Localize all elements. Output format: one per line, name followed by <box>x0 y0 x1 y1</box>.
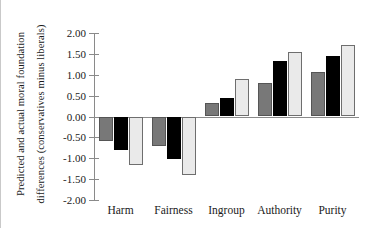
bar-group-authority <box>258 33 302 200</box>
y-tick-mark <box>89 158 99 159</box>
bar-group-purity <box>311 33 355 200</box>
bar-harm-series-3 <box>129 117 143 166</box>
chart-figure: Predicted and actual moral foundation di… <box>0 0 372 228</box>
bar-group-harm <box>99 33 143 200</box>
x-label-ingroup: Ingroup <box>208 205 244 217</box>
bar-fairness-series-1 <box>152 117 166 147</box>
y-tick-mark <box>89 200 99 201</box>
y-tick-label: 1.50 <box>67 48 86 59</box>
y-tick-mark <box>89 179 99 180</box>
y-tick-mark <box>89 117 99 118</box>
y-tick-label: 1.00 <box>67 69 86 80</box>
x-label-purity: Purity <box>318 205 346 217</box>
x-label-fairness: Fairness <box>154 205 192 217</box>
y-tick-label: -1.00 <box>63 153 86 164</box>
bar-harm-series-1 <box>99 117 113 141</box>
y-tick-mark <box>89 75 99 76</box>
bar-authority-series-3 <box>288 52 302 116</box>
x-label-harm: Harm <box>107 205 133 217</box>
y-tick-mark <box>89 96 99 97</box>
bar-ingroup-series-2 <box>220 98 234 116</box>
bar-purity-series-1 <box>311 72 325 116</box>
y-tick-mark <box>89 137 99 138</box>
bar-purity-series-2 <box>326 56 340 117</box>
y-tick-mark <box>89 33 99 34</box>
y-tick-label: -0.50 <box>63 132 86 143</box>
y-axis-title-line-1: Predicted and actual moral foundation <box>16 32 27 196</box>
y-axis-title-line-2: differences (conservatives minus liberal… <box>36 24 47 203</box>
y-axis-title: Predicted and actual moral foundation di… <box>1 0 61 228</box>
bar-fairness-series-3 <box>182 117 196 176</box>
bar-authority-series-2 <box>273 61 287 117</box>
bar-fairness-series-2 <box>167 117 181 160</box>
bar-group-ingroup <box>205 33 249 200</box>
x-label-authority: Authority <box>257 205 302 217</box>
bar-authority-series-1 <box>258 83 272 117</box>
y-tick-label: -1.50 <box>63 174 86 185</box>
plot-area: 2.001.501.000.500.00-0.50-1.00-1.50-2.00… <box>94 33 359 200</box>
bar-ingroup-series-3 <box>235 79 249 116</box>
y-tick-label: 2.00 <box>67 28 86 39</box>
y-tick-label: 0.00 <box>67 111 86 122</box>
bar-harm-series-2 <box>114 117 128 151</box>
bar-ingroup-series-1 <box>205 103 219 117</box>
y-tick-label: -2.00 <box>63 195 86 206</box>
bar-purity-series-3 <box>341 45 355 117</box>
bar-group-fairness <box>152 33 196 200</box>
y-tick-mark <box>89 54 99 55</box>
y-tick-label: 0.50 <box>67 90 86 101</box>
